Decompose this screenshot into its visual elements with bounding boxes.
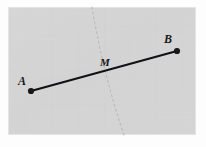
point-m-label: M <box>99 56 111 68</box>
figure-canvas: A B M <box>0 0 206 147</box>
point-a-label: A <box>17 74 26 88</box>
point-b-label: B <box>163 32 172 46</box>
point-a-dot <box>28 88 34 94</box>
geometry-figure: A B M <box>0 0 206 147</box>
point-b-dot <box>174 48 180 54</box>
